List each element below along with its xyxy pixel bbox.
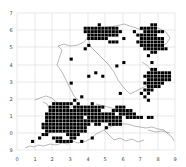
occurrence-cell <box>77 116 80 119</box>
occurrence-cell <box>101 106 104 109</box>
occurrence-cell <box>164 78 167 81</box>
x-tick-label: 2 <box>50 156 53 162</box>
occurrence-cell <box>49 116 52 119</box>
occurrence-cell <box>105 30 108 33</box>
occurrence-cell <box>154 51 157 54</box>
occurrence-cell <box>161 40 164 43</box>
x-axis-labels: 0123456789 <box>15 156 176 162</box>
occurrence-cell <box>45 116 48 119</box>
occurrence-cell <box>94 71 97 74</box>
occurrence-cell <box>98 30 101 33</box>
occurrence-cell <box>56 136 59 139</box>
occurrence-cell <box>147 82 150 85</box>
occurrence-cell <box>154 30 157 33</box>
occurrence-cell <box>56 123 59 126</box>
occurrence-cell <box>56 130 59 133</box>
occurrence-cell <box>77 106 80 109</box>
occurrence-cell <box>56 106 59 109</box>
occurrence-cell <box>108 119 111 122</box>
occurrence-cell <box>42 126 45 129</box>
occurrence-cell <box>157 37 160 40</box>
occurrence-cell <box>87 27 90 30</box>
y-tick-label: 5 <box>9 44 12 50</box>
occurrence-cell <box>105 126 108 129</box>
occurrence-cell <box>115 106 118 109</box>
occurrence-cell <box>66 116 69 119</box>
occurrence-cell <box>80 130 83 133</box>
occurrence-cell <box>66 119 69 122</box>
occurrence-cell <box>161 30 164 33</box>
occurrence-cell <box>164 75 167 78</box>
occurrence-cell <box>101 75 104 78</box>
occurrence-cell <box>108 40 111 43</box>
occurrence-cell <box>63 102 66 105</box>
occurrence-cell <box>45 119 48 122</box>
occurrence-cell <box>98 27 101 30</box>
occurrence-cell <box>80 119 83 122</box>
occurrence-cell <box>84 27 87 30</box>
occurrence-cell <box>108 34 111 37</box>
occurrence-cell <box>143 37 146 40</box>
occurrence-cell <box>150 47 153 50</box>
occurrence-cell <box>147 34 150 37</box>
occurrence-cell <box>115 116 118 119</box>
occurrence-cell <box>115 34 118 37</box>
occurrence-cell <box>143 34 146 37</box>
occurrence-cell <box>147 30 150 33</box>
occurrence-cell <box>157 78 160 81</box>
occurrence-cell <box>126 112 129 115</box>
y-tick-label: 9 <box>9 147 12 153</box>
occurrence-cell <box>45 130 48 133</box>
occurrence-cell <box>122 112 125 115</box>
x-tick-label: 8 <box>156 156 159 162</box>
occurrence-cell <box>150 37 153 40</box>
occurrence-cell <box>70 102 73 105</box>
occurrence-cell <box>49 106 52 109</box>
occurrence-cell <box>91 112 94 115</box>
occurrence-cell <box>150 61 153 64</box>
occurrence-cell <box>70 123 73 126</box>
occurrence-cell <box>59 126 62 129</box>
occurrence-cell <box>56 109 59 112</box>
occurrence-cell <box>133 30 136 33</box>
occurrence-cell <box>150 88 153 91</box>
occurrence-cell <box>101 119 104 122</box>
occurrence-cell <box>112 123 115 126</box>
occurrence-cell <box>94 119 97 122</box>
occurrence-cell <box>122 109 125 112</box>
occurrence-cell <box>84 126 87 129</box>
occurrence-cell <box>108 116 111 119</box>
occurrence-cell <box>108 27 111 30</box>
occurrence-cell <box>140 27 143 30</box>
occurrence-cell <box>80 116 83 119</box>
occurrence-cell <box>150 75 153 78</box>
occurrence-cell <box>112 40 115 43</box>
occurrence-cell <box>91 136 94 139</box>
occurrence-cell <box>49 109 52 112</box>
occurrence-cell <box>31 140 34 143</box>
occurrence-cell <box>94 27 97 30</box>
occurrence-cell <box>150 85 153 88</box>
occurrence-cell <box>143 44 146 47</box>
occurrence-cell <box>154 44 157 47</box>
occurrence-cell <box>143 95 146 98</box>
occurrence-cell <box>129 112 132 115</box>
occurrence-cell <box>122 106 125 109</box>
occurrence-cell <box>52 119 55 122</box>
x-tick-label: 7 <box>138 156 141 162</box>
occurrence-cell <box>150 68 153 71</box>
y-tick-label: 0 <box>9 130 12 136</box>
occurrence-cell <box>157 30 160 33</box>
occurrence-cell <box>105 27 108 30</box>
occurrence-cell <box>59 116 62 119</box>
occurrence-cell <box>168 78 171 81</box>
occurrence-cell <box>143 27 146 30</box>
occurrence-cell <box>87 109 90 112</box>
occurrence-cell <box>45 112 48 115</box>
occurrence-cell <box>98 123 101 126</box>
occurrence-cell <box>77 126 80 129</box>
occurrence-cell <box>45 123 48 126</box>
occurrence-cell <box>84 106 87 109</box>
occurrence-cell <box>59 140 62 143</box>
occurrence-cell <box>147 85 150 88</box>
